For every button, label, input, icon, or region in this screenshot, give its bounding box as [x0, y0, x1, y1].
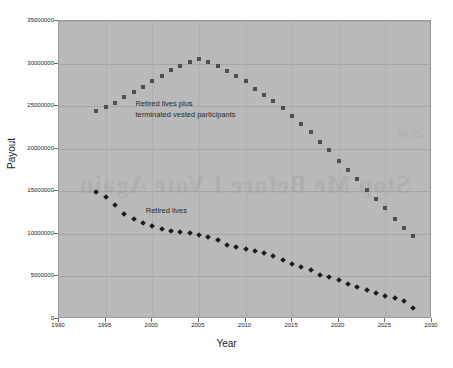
data-point [233, 244, 239, 250]
data-point [205, 234, 211, 240]
x-tick-label: 1995 [98, 322, 111, 328]
data-point [197, 57, 201, 61]
watermark-text-secondary: 2030 [398, 125, 424, 141]
gridline-horizontal [59, 276, 430, 277]
data-point [262, 93, 266, 97]
x-tick-mark [151, 318, 152, 322]
data-point [373, 290, 379, 296]
gridline-vertical [246, 21, 247, 317]
data-point [149, 223, 155, 229]
x-axis-label: Year [0, 338, 453, 349]
annotation-line: terminated vested participants [135, 109, 235, 120]
y-axis-label: Payout [6, 138, 17, 169]
data-point [243, 246, 249, 252]
data-point [132, 90, 136, 94]
gridline-vertical [339, 21, 340, 317]
data-point [224, 242, 230, 248]
data-point [252, 248, 258, 254]
x-tick-label: 1990 [51, 322, 64, 328]
data-point [289, 261, 295, 267]
data-point [337, 159, 341, 163]
y-tick-label: 5000000 [0, 272, 54, 278]
y-tick-label: 25000000 [0, 102, 54, 108]
data-point [271, 99, 275, 103]
data-point [346, 168, 350, 172]
data-point [93, 189, 99, 195]
x-tick-mark [291, 318, 292, 322]
data-point [94, 109, 98, 113]
data-point [281, 106, 285, 110]
data-point [327, 274, 333, 280]
lower-series-label: Retired lives [146, 205, 187, 216]
y-tick-label: 35000000 [0, 17, 54, 23]
data-point [122, 95, 126, 99]
data-point [113, 101, 117, 105]
data-point [188, 60, 192, 64]
data-point [112, 202, 118, 208]
gridline-horizontal [59, 234, 430, 235]
y-tick-label: 15000000 [0, 187, 54, 193]
gridline-vertical [199, 21, 200, 317]
annotation-line: Retired lives [146, 205, 187, 216]
y-tick-label: 10000000 [0, 230, 54, 236]
data-point [336, 277, 342, 283]
watermark-text: Stop Me Before I Vote Again [59, 171, 430, 199]
data-point [299, 265, 305, 271]
data-point [103, 194, 109, 200]
data-point [364, 287, 370, 293]
gridline-vertical [152, 21, 153, 317]
data-point [411, 305, 417, 311]
data-point [355, 177, 359, 181]
data-point [383, 293, 389, 299]
data-point [104, 105, 108, 109]
x-tick-label: 2010 [238, 322, 251, 328]
plot-area: Stop Me Before I Vote Again 2030 Retired… [58, 20, 431, 318]
data-point [308, 267, 314, 273]
gridline-horizontal [59, 64, 430, 65]
x-tick-mark [431, 318, 432, 322]
x-tick-label: 2005 [191, 322, 204, 328]
data-point [121, 211, 127, 217]
data-point [169, 68, 173, 72]
data-point [206, 60, 210, 64]
gridline-vertical [385, 21, 386, 317]
x-tick-mark [245, 318, 246, 322]
gridline-horizontal [59, 21, 430, 22]
data-point [299, 122, 303, 126]
data-point [159, 226, 165, 232]
data-point [178, 64, 182, 68]
x-tick-mark [338, 318, 339, 322]
y-tick-label: 0 [0, 315, 54, 321]
data-point [140, 220, 146, 226]
y-tick-label: 20000000 [0, 145, 54, 151]
data-point [383, 206, 387, 210]
x-tick-mark [58, 318, 59, 322]
data-point [271, 254, 277, 260]
data-point [234, 74, 238, 78]
data-point [196, 232, 202, 238]
data-point [355, 284, 361, 290]
gridline-horizontal [59, 191, 430, 192]
annotation-line: Retired lives plus [135, 98, 235, 109]
data-point [141, 85, 145, 89]
data-point [411, 234, 415, 238]
data-point [150, 79, 154, 83]
data-point [374, 197, 378, 201]
gridline-horizontal [59, 106, 430, 107]
data-point [393, 217, 397, 221]
data-point [131, 217, 137, 223]
data-point [187, 230, 193, 236]
x-tick-mark [384, 318, 385, 322]
data-point [216, 64, 220, 68]
x-tick-label: 2000 [145, 322, 158, 328]
data-point [345, 281, 351, 287]
data-point [401, 298, 407, 304]
x-tick-label: 2025 [378, 322, 391, 328]
data-point [309, 130, 313, 134]
x-tick-label: 2015 [284, 322, 297, 328]
data-point [160, 74, 164, 78]
y-tick-label: 30000000 [0, 60, 54, 66]
data-point [215, 237, 221, 243]
chart-figure: Payout 050000001000000015000000200000002… [0, 0, 453, 368]
x-tick-label: 2020 [331, 322, 344, 328]
